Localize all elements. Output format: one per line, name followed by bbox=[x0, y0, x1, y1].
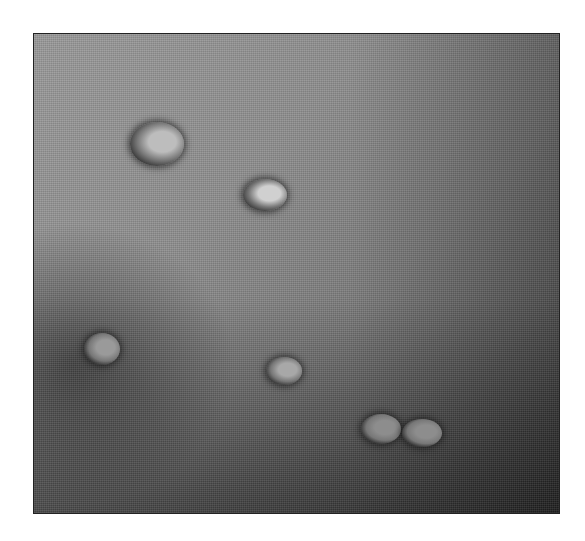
cell-particle bbox=[266, 357, 302, 385]
micrograph-image bbox=[33, 33, 560, 514]
cell-particle bbox=[130, 122, 184, 166]
cell-particle bbox=[84, 333, 120, 365]
cell-particle bbox=[243, 179, 287, 211]
cell-particle bbox=[402, 419, 442, 447]
cell-particle bbox=[361, 414, 401, 444]
image-texture bbox=[34, 34, 559, 513]
